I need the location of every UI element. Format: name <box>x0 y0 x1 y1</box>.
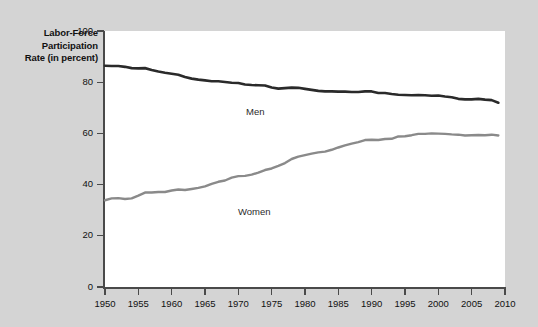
chart-figure: Labor-Force Participation Rate (in perce… <box>0 0 538 327</box>
data-lines <box>0 0 538 327</box>
series-line-women <box>105 133 498 200</box>
series-label-men: Men <box>246 106 264 117</box>
series-label-women: Women <box>238 206 271 217</box>
series-line-men <box>105 66 498 103</box>
